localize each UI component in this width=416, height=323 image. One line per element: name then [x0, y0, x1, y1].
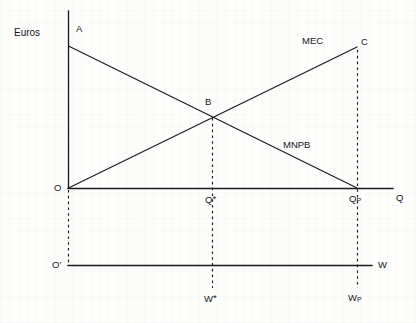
- lower-origin-label: O′: [52, 260, 61, 270]
- tick-w-p-base: W: [348, 292, 357, 303]
- point-label-a: A: [76, 24, 82, 34]
- tick-q-p-sub: P: [356, 197, 361, 204]
- tick-label-q-p: QP: [349, 194, 361, 204]
- point-label-b: B: [205, 97, 211, 107]
- economics-diagram-figure: Euros A B C MEC MNPB O Q Q* QP O′ W W* W…: [0, 0, 416, 323]
- diagram-canvas: [0, 0, 416, 323]
- tick-w-star-mark: *: [213, 292, 217, 303]
- tick-label-w-p: WP: [348, 293, 362, 303]
- origin-label: O: [54, 183, 61, 193]
- lower-axis-label: W: [378, 260, 387, 270]
- tick-label-w-star: W*: [204, 293, 217, 304]
- curve-label-mnpb: MNPB: [283, 140, 310, 150]
- tick-w-p-sub: P: [357, 296, 362, 303]
- x-axis-label: Q: [396, 193, 403, 203]
- y-axis-label: Euros: [14, 28, 40, 38]
- tick-label-q-star: Q*: [205, 194, 216, 205]
- tick-q-star-mark: *: [212, 193, 216, 204]
- curve-label-mec: MEC: [302, 36, 323, 46]
- tick-w-star-base: W: [204, 293, 213, 304]
- point-label-c: C: [361, 37, 368, 47]
